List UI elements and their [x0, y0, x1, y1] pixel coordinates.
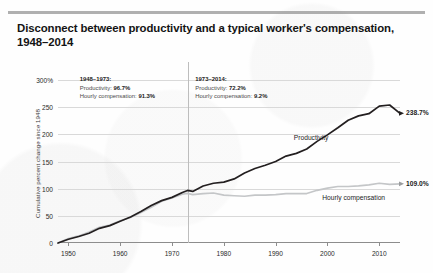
x-axis-tick-label: 1990: [268, 250, 283, 257]
series-lines: [58, 80, 400, 243]
x-axis-tick-mark: [379, 243, 380, 246]
x-axis-tick-label: 1980: [216, 250, 231, 257]
x-axis-tick-mark: [327, 243, 328, 246]
y-axis-tick-label: 0: [49, 240, 53, 247]
x-axis-tick-label: 1960: [113, 250, 128, 257]
endpoint-arrow: [399, 181, 404, 186]
x-axis-tick-mark: [172, 243, 173, 246]
annotation-2-line1-value: 72.2%: [229, 85, 246, 91]
x-axis-tick-mark: [224, 243, 225, 246]
y-axis-tick-label: 100: [42, 185, 53, 192]
annotation-1-line1-label: Productivity:: [80, 85, 112, 91]
annotation-2-line2-label: Hourly compensation:: [195, 93, 252, 99]
x-axis-tick-label: 1970: [165, 250, 180, 257]
endpoint-label-compensation: 109.0%: [406, 180, 429, 187]
y-axis-tick-label: 200: [42, 131, 53, 138]
x-axis-tick-mark: [276, 243, 277, 246]
x-axis-tick-label: 2000: [320, 250, 335, 257]
chart-container: Cumulative percent change since 1948 050…: [0, 62, 433, 273]
x-axis-tick-label: 2010: [372, 250, 387, 257]
annotation-2-line1-label: Productivity:: [195, 85, 227, 91]
x-axis-tick-mark: [120, 243, 121, 246]
x-axis-tick-mark: [68, 243, 69, 246]
y-axis-tick-label: 50: [46, 212, 53, 219]
annotation-2-line2-value: 9.2%: [254, 93, 267, 99]
endpoint-arrow: [399, 111, 404, 116]
plot-area: Cumulative percent change since 1948 050…: [58, 80, 400, 243]
endpoint-label-productivity: 238.7%: [406, 109, 429, 116]
y-axis-tick-label: 150: [42, 158, 53, 165]
header-rule: [8, 11, 425, 14]
chart-page: Disconnect between productivity and a ty…: [0, 0, 433, 273]
series-line-hourly-compensation: [58, 183, 400, 243]
annotation-1948-1973: 1948–1973: Productivity: 96.7% Hourly co…: [80, 76, 155, 100]
y-axis-tick-label: 300%: [36, 77, 53, 84]
annotation-2-heading: 1973–2014:: [195, 76, 267, 84]
annotation-1-line2-label: Hourly compensation:: [80, 93, 137, 99]
annotation-1973-2014: 1973–2014: Productivity: 72.2% Hourly co…: [195, 76, 267, 100]
series-line-productivity: [58, 105, 400, 243]
y-axis-tick-label: 250: [42, 104, 53, 111]
x-axis-tick-label: 1950: [61, 250, 76, 257]
annotation-1-heading: 1948–1973:: [80, 76, 155, 84]
annotation-1-line1-value: 96.7%: [113, 85, 130, 91]
annotation-1-line2-value: 91.3%: [138, 93, 155, 99]
series-label-compensation: Hourly compensation: [322, 194, 385, 201]
series-label-productivity: Productivity: [294, 134, 329, 141]
page-title: Disconnect between productivity and a ty…: [17, 22, 407, 49]
